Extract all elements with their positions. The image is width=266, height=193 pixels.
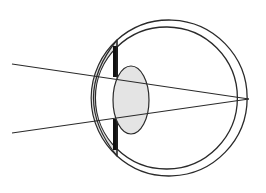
eye-diagram-svg [0, 0, 266, 193]
eye-diagram [0, 0, 266, 193]
lens [113, 66, 149, 134]
